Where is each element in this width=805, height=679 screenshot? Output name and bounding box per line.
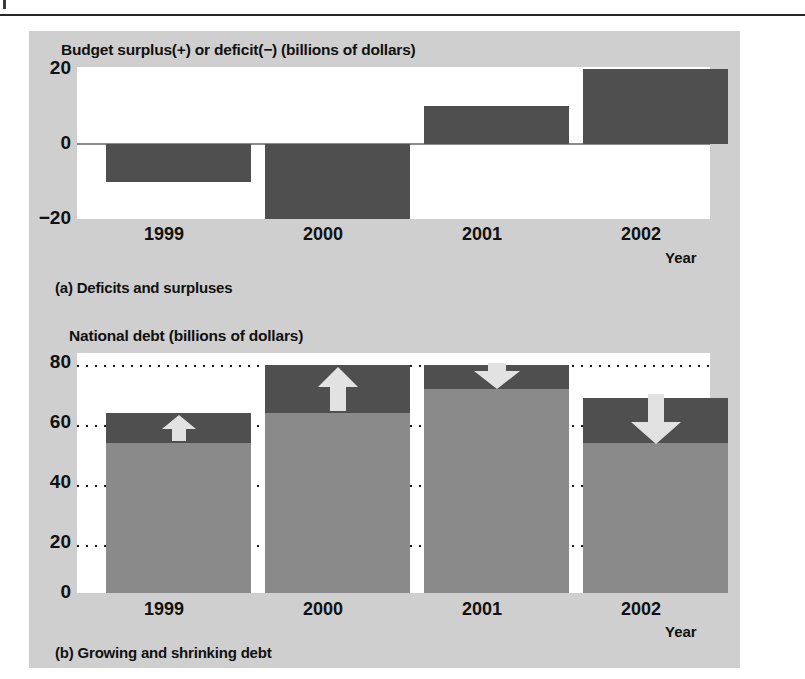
chart-b-bar-2000 — [265, 365, 410, 593]
chart-b-title: National debt (billions of dollars) — [69, 327, 303, 345]
chart-b-bar-2002-base — [583, 443, 728, 593]
chart-b-ytick-40: 40 — [29, 471, 71, 493]
chart-b-arrow-up-2000 — [318, 367, 358, 411]
chart-a-xaxis-label: Year — [665, 249, 697, 266]
chart-a-xtick-2000: 2000 — [236, 224, 410, 245]
chart-a-ytick-20: 20 — [29, 57, 71, 79]
page: Budget surplus(+) or deficit(−) (billion… — [0, 0, 805, 679]
chart-a-ytick-0: 0 — [29, 132, 71, 154]
chart-b-plot-area — [77, 353, 710, 593]
chart-b-ytick-20: 20 — [29, 531, 71, 553]
chart-b-xaxis-label: Year — [665, 623, 697, 640]
chart-b-bar-1999 — [106, 401, 251, 593]
chart-b-arrow-down-2001 — [474, 363, 520, 389]
page-top-rule — [0, 14, 805, 16]
chart-b-bar-1999-base — [106, 443, 251, 593]
chart-a-bar-1999 — [106, 144, 251, 182]
chart-a-title: Budget surplus(+) or deficit(−) (billion… — [61, 41, 416, 59]
chart-b-xtick-2002: 2002 — [554, 599, 728, 620]
chart-b-ytick-80: 80 — [29, 351, 71, 373]
chart-a-bar-2000 — [265, 144, 410, 219]
chart-b-caption: (b) Growing and shrinking debt — [55, 644, 272, 661]
chart-b-arrow-up-1999 — [162, 415, 196, 441]
chart-b-ytick-0: 0 — [29, 581, 71, 603]
chart-a-bar-2001 — [424, 106, 569, 144]
chart-a-bar-2002 — [583, 69, 728, 144]
chart-b-ytick-60: 60 — [29, 411, 71, 433]
chart-b-xtick-1999: 1999 — [77, 599, 251, 620]
chart-a-caption: (a) Deficits and surpluses — [55, 279, 232, 296]
chart-a-xtick-1999: 1999 — [77, 224, 251, 245]
chart-a-plot-area — [77, 67, 710, 219]
chart-b-bar-2001 — [424, 365, 569, 593]
chart-a-xtick-2001: 2001 — [395, 224, 569, 245]
chart-a-xtick-2002: 2002 — [554, 224, 728, 245]
page-corner-mark — [3, 0, 6, 9]
chart-b-xtick-2000: 2000 — [236, 599, 410, 620]
chart-b-bar-2001-base — [424, 389, 569, 593]
chart-a-ytick-minus-20: −20 — [29, 207, 71, 229]
chart-b-xtick-2001: 2001 — [395, 599, 569, 620]
chart-b-bar-2000-base — [265, 413, 410, 593]
chart-b-bar-2002 — [583, 398, 728, 593]
chart-b-arrow-down-2002 — [631, 394, 681, 444]
figure-panel: Budget surplus(+) or deficit(−) (billion… — [29, 31, 740, 668]
